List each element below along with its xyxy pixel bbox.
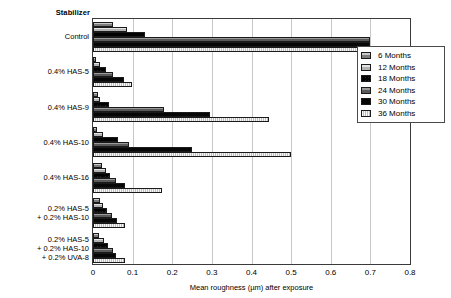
legend-swatch-icon — [361, 52, 371, 59]
category-label: 0.2% HAS-5+ 0.2% HAS-10+ 0.2% UVA-8 — [1, 235, 89, 262]
legend-swatch-icon — [361, 87, 371, 94]
category-axis-title: Stabilizer — [28, 8, 90, 17]
x-tick-label: 0.5 — [278, 268, 304, 277]
category-label-line: 0.4% HAS-16 — [1, 173, 89, 182]
category-label-line: 0.4% HAS-9 — [1, 103, 89, 112]
x-axis-title: Mean roughness (µm) after exposure — [92, 283, 411, 292]
category-label: Control — [1, 32, 89, 41]
legend-swatch-icon — [361, 64, 371, 71]
legend-swatch-icon — [361, 98, 371, 105]
category-label-line: 0.2% HAS-5 — [1, 204, 89, 213]
x-tick-label: 0.3 — [199, 268, 225, 277]
legend-label: 30 Months — [378, 97, 415, 106]
category-label-line: 0.4% HAS-10 — [1, 138, 89, 147]
bar — [93, 188, 162, 193]
legend-swatch-icon — [361, 75, 371, 82]
x-tick-label: 0.7 — [357, 268, 383, 277]
x-tick-label: 0.2 — [159, 268, 185, 277]
category-label-line: 0.4% HAS-5 — [1, 67, 89, 76]
category-label: 0.4% HAS-16 — [1, 173, 89, 182]
bar — [93, 82, 132, 87]
category-label: 0.2% HAS-5+ 0.2% HAS-10 — [1, 204, 89, 222]
legend-item[interactable]: 36 Months — [361, 108, 440, 120]
legend-item[interactable]: 24 Months — [361, 85, 440, 97]
x-tick-label: 0.6 — [318, 268, 344, 277]
legend-label: 24 Months — [378, 86, 415, 95]
bar-group: 0.2% HAS-5+ 0.2% HAS-10+ 0.2% UVA-8 — [93, 231, 410, 266]
x-tick-label: 0.8 — [397, 268, 423, 277]
category-label: 0.4% HAS-9 — [1, 103, 89, 112]
legend-label: 12 Months — [378, 63, 415, 72]
bar — [93, 223, 125, 228]
legend-item[interactable]: 30 Months — [361, 96, 440, 108]
category-label: 0.4% HAS-5 — [1, 67, 89, 76]
bar — [93, 258, 125, 263]
legend-item[interactable]: 6 Months — [361, 50, 440, 62]
x-tick-label: 0.4 — [239, 268, 265, 277]
bar — [93, 117, 269, 122]
category-label: 0.4% HAS-10 — [1, 138, 89, 147]
bar — [93, 47, 368, 52]
category-label-line: + 0.2% HAS-10 — [1, 213, 89, 222]
legend-item[interactable]: 18 Months — [361, 73, 440, 85]
category-label-line: + 0.2% HAS-10 — [1, 244, 89, 253]
category-label-line: 0.2% HAS-5 — [1, 235, 89, 244]
bar-group: 0.4% HAS-10 — [93, 125, 410, 160]
bar-group: 0.4% HAS-16 — [93, 160, 410, 195]
legend: 6 Months12 Months18 Months24 Months30 Mo… — [357, 46, 445, 123]
legend-label: 6 Months — [378, 51, 411, 60]
legend-label: 36 Months — [378, 109, 415, 118]
bar — [93, 152, 291, 157]
legend-swatch-icon — [361, 110, 371, 117]
x-tick-label: 0.1 — [120, 268, 146, 277]
x-tick-label: 0 — [80, 268, 106, 277]
legend-item[interactable]: 12 Months — [361, 62, 440, 74]
legend-label: 18 Months — [378, 74, 415, 83]
category-label-line: Control — [1, 32, 89, 41]
chart-root: Stabilizer Control0.4% HAS-50.4% HAS-90.… — [0, 0, 451, 298]
bar-group: 0.2% HAS-5+ 0.2% HAS-10 — [93, 195, 410, 230]
category-label-line: + 0.2% UVA-8 — [1, 253, 89, 262]
